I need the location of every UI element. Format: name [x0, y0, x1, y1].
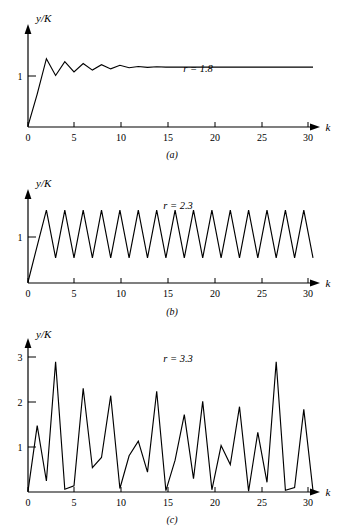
x-tick-a-0: 0 [26, 132, 31, 143]
y-ticks-c [28, 357, 36, 447]
x-tick-a-20: 20 [210, 132, 220, 143]
x-ticks-a [28, 122, 308, 127]
chart-panel-c: y/K r = 3.3 0 5 10 15 20 25 30 [0, 330, 344, 530]
x-tick-c-25: 25 [257, 497, 267, 508]
x-tick-b-15: 15 [163, 288, 173, 299]
caption-c: (c) [166, 514, 178, 526]
y-axis-label-b: y/K [35, 177, 52, 189]
x-tick-a-5: 5 [72, 132, 77, 143]
y-axis-label-c: y/K [35, 330, 52, 340]
x-tick-a-15: 15 [163, 132, 173, 143]
caption-b: (b) [166, 306, 178, 318]
x-tick-b-25: 25 [257, 288, 267, 299]
y-tick-b-1: 1 [18, 232, 23, 243]
x-axis-label-a: k [326, 121, 332, 133]
x-axis-label-b: k [326, 277, 332, 289]
series-line-c [28, 362, 313, 491]
annotation-r-a: r = 1.8 [183, 63, 213, 74]
x-tick-a-10: 10 [116, 132, 126, 143]
x-tick-b-0: 0 [26, 288, 31, 299]
y-tick-c-3: 3 [18, 352, 23, 363]
x-tick-c-20: 20 [210, 497, 220, 508]
x-tick-b-20: 20 [210, 288, 220, 299]
x-axis-label-c: k [326, 486, 332, 498]
x-tick-b-10: 10 [116, 288, 126, 299]
x-tick-b-5: 5 [72, 288, 77, 299]
series-line-a [28, 59, 313, 126]
annotation-r-b: r = 2.3 [163, 200, 193, 211]
chart-panel-a: y/K r = 1.8 0 5 10 15 20 25 30 1 k (a [0, 0, 344, 165]
y-tick-c-2: 2 [18, 397, 23, 408]
axes-a [25, 24, 320, 130]
y-tick-c-1: 1 [18, 442, 23, 453]
x-tick-b-30: 30 [303, 288, 313, 299]
x-tick-c-10: 10 [116, 497, 126, 508]
series-line-b [28, 210, 313, 282]
x-tick-a-30: 30 [303, 132, 313, 143]
chart-panel-b: y/K r = 2.3 0 5 10 15 20 25 30 1 k (b [0, 165, 344, 330]
annotation-r-c: r = 3.3 [163, 353, 193, 364]
x-tick-c-5: 5 [72, 497, 77, 508]
x-ticks-b [28, 278, 308, 283]
caption-a: (a) [166, 149, 178, 161]
x-tick-c-30: 30 [303, 497, 313, 508]
plot-c: y/K r = 3.3 0 5 10 15 20 25 30 [0, 330, 344, 530]
x-tick-c-15: 15 [163, 497, 173, 508]
x-tick-c-0: 0 [26, 497, 31, 508]
plot-b: y/K r = 2.3 0 5 10 15 20 25 30 1 k (b [0, 165, 344, 330]
plot-a: y/K r = 1.8 0 5 10 15 20 25 30 1 k (a [0, 0, 344, 165]
y-tick-a-1: 1 [18, 71, 23, 82]
y-axis-label-a: y/K [35, 12, 52, 24]
x-tick-a-25: 25 [257, 132, 267, 143]
